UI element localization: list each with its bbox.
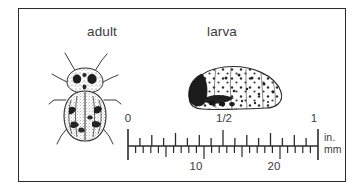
ruler-label-inch-0: 0 [120, 112, 136, 124]
beetle-scale-figure: adult larva [0, 0, 356, 189]
ruler-label-inch-1: 1 [306, 112, 322, 124]
adult-beetle-illustration [47, 48, 123, 150]
label-adult: adult [72, 24, 132, 39]
measurement-ruler: 0 1/2 1 10 20 in. mm [118, 112, 348, 184]
ruler-label-inch-half: 1/2 [212, 112, 236, 124]
larva-illustration [176, 58, 292, 120]
ruler-scale-bar [118, 126, 348, 174]
label-larva: larva [192, 24, 252, 39]
